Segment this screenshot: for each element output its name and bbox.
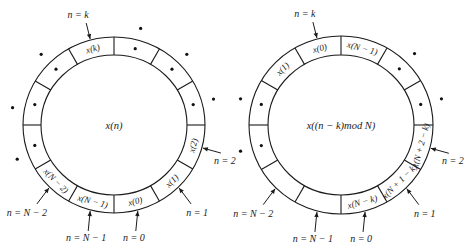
ellipsis-dot (192, 103, 195, 106)
ellipsis-dot (54, 68, 57, 71)
segment-divider (177, 81, 193, 90)
segment-divider (69, 49, 78, 65)
ellipsis-dot (239, 150, 242, 153)
index-pointer-label: n = N − 1 (66, 232, 106, 243)
ellipsis-dot (16, 158, 19, 161)
cell-label: x(0) (126, 195, 144, 209)
segment-divider (404, 81, 420, 91)
segment-divider (35, 81, 51, 90)
index-pointer-label: n = 1 (186, 207, 208, 218)
index-pointer-label: n = 0 (123, 232, 145, 243)
index-pointer-label: n = k (68, 9, 90, 20)
ellipsis-dot (134, 47, 137, 50)
index-pointer-label: n = k (294, 8, 316, 19)
segment-divider (378, 48, 388, 64)
left-ring-dots (11, 27, 215, 161)
ellipsis-dot (419, 103, 422, 106)
circular-shift-diagram: x(k)x(0)x(1)x(2)x(N − 1)x(N − 2) n = kn … (0, 0, 472, 251)
ellipsis-dot (440, 97, 443, 100)
cell-label: x(2) (186, 137, 200, 155)
segment-divider (295, 186, 305, 202)
ellipsis-dot (139, 27, 142, 30)
segment-divider (261, 81, 277, 91)
cell-label: x(1) (273, 60, 291, 78)
ellipsis-dot (260, 144, 263, 147)
right-ring-shifted: x(0)x(N − 1)x(1)x(N − k)x(N + 1 − k)x(N … (233, 8, 464, 244)
ellipsis-dot (40, 53, 43, 56)
ellipsis-dot (170, 68, 173, 71)
ellipsis-dot (11, 106, 14, 109)
ellipsis-dot (33, 144, 36, 147)
ellipsis-dot (33, 103, 36, 106)
ellipsis-dot (239, 97, 242, 100)
index-pointer-label: n = 2 (442, 155, 464, 166)
segment-divider (261, 160, 277, 170)
cell-label: x(k) (84, 42, 101, 56)
index-pointer-label: n = 1 (414, 208, 436, 219)
index-pointer-label: n = 0 (350, 233, 372, 244)
segment-divider (177, 160, 193, 169)
cell-label: x(0) (310, 42, 328, 56)
ellipsis-dot (413, 52, 416, 55)
right-center-label: x((n − k)mod N) (306, 120, 376, 132)
index-pointer-label: n = N − 2 (7, 207, 47, 218)
ellipsis-dot (185, 53, 188, 56)
segment-divider (295, 48, 305, 64)
cell-label: x(N + 2 − k) (410, 122, 432, 170)
index-pointer-label: n = N − 1 (293, 233, 333, 244)
ellipsis-dot (398, 67, 401, 70)
arrowhead-icon (270, 189, 275, 194)
arrowhead-icon (179, 188, 184, 193)
ellipsis-dot (212, 98, 215, 101)
index-pointer-label: n = N − 2 (233, 208, 273, 219)
segment-divider (151, 49, 160, 65)
segment-divider (151, 186, 160, 202)
left-center-label: x(n) (105, 120, 123, 132)
ellipsis-dot (260, 103, 263, 106)
arrowhead-icon (407, 189, 412, 194)
index-pointer-label: n = 2 (214, 155, 236, 166)
arrowhead-icon (44, 188, 49, 193)
left-ring-x-n: x(k)x(0)x(1)x(2)x(N − 1)x(N − 2) n = kn … (7, 9, 236, 243)
